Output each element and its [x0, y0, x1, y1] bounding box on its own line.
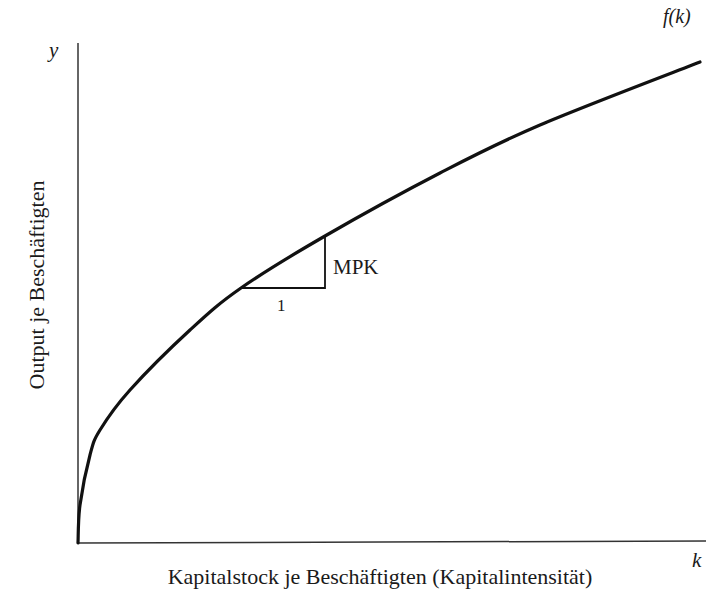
x-axis-title: Kapitalstock je Beschäftigten (Kapitalin… [140, 566, 620, 588]
production-function-diagram [0, 0, 726, 614]
production-function-curve [78, 62, 700, 543]
y-axis-symbol: y [49, 40, 58, 61]
curve-label: f(k) [663, 6, 691, 26]
y-axis-title: Output je Beschäftigten [26, 181, 48, 390]
mpk-label: MPK [333, 257, 379, 278]
x-axis-symbol: k [692, 550, 701, 571]
run-label: 1 [277, 297, 286, 314]
x-axis [78, 541, 706, 543]
